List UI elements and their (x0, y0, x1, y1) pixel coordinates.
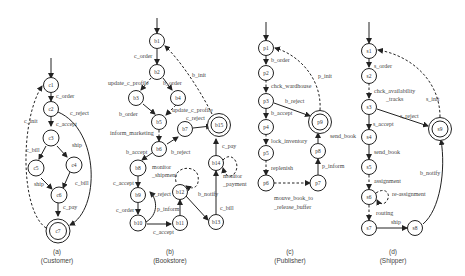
edge-label: chck_wardhouse (271, 83, 312, 89)
edge-label: ship (391, 219, 401, 225)
state-label: b10 (134, 220, 143, 226)
state-label: s1 (367, 48, 372, 54)
state-machine-diagram: c1 c2 c3 c4 c5 c6 c7 c_order c_accept c_… (0, 0, 465, 276)
state-label: s2 (367, 73, 372, 79)
edge-label: p_inform (322, 163, 345, 169)
edge-label: send_book (330, 133, 356, 139)
caption-name: (Customer) (41, 257, 74, 265)
caption-letter: (d) (389, 248, 397, 256)
edge-label: _shipment (151, 172, 177, 178)
state-label: b8 (135, 165, 141, 171)
edge-label: monitor (152, 164, 171, 170)
edge-s8-s9 (423, 140, 443, 224)
edge-label: s_reject (400, 113, 419, 119)
edge-b6-b7 (167, 137, 178, 144)
edge-label: re-assignment (392, 191, 426, 197)
state-label: c5 (33, 165, 38, 171)
edge-label: c_order (56, 93, 74, 99)
state-label: b2 (154, 69, 160, 75)
state-label: c6 (56, 192, 61, 198)
edge-label: c_init (24, 118, 38, 124)
edge-c7-c1 (26, 86, 46, 228)
edge-label: ship (72, 142, 82, 148)
state-label: s8 (413, 225, 418, 231)
edge-c4-c6 (63, 172, 70, 188)
state-label: p8 (315, 148, 321, 154)
edge-label: b_init (192, 72, 206, 78)
edge-label: c_accept (153, 229, 174, 235)
edge-b12-b13 (186, 196, 208, 220)
edge-label: b_order (119, 111, 138, 117)
edge-label: b_reject (171, 149, 191, 155)
caption-letter: (c) (286, 248, 294, 256)
state-label: p1 (263, 45, 269, 51)
caption-letter: (b) (166, 248, 174, 256)
edge-label: p_init (318, 73, 332, 79)
edge-label: b_order (163, 80, 182, 86)
edge-label: replenish (271, 165, 293, 171)
edge-label: p_inform (157, 206, 180, 212)
edge-label: b_reject (285, 98, 305, 104)
edge-label: c_order (134, 53, 152, 59)
state-label: b7 (182, 126, 188, 132)
edge-label: b_accept (126, 149, 148, 155)
panel-publisher: p1 p2 p3 p4 p5 p6 p7 p8 p9 b_order chck_… (258, 22, 356, 265)
edge-label: c_pay (222, 143, 236, 149)
state-label: p5 (263, 150, 269, 156)
edge-label: s_accept (373, 121, 394, 127)
state-label: b13 (212, 219, 221, 225)
state-label: p4 (263, 124, 269, 130)
edge-label: c_reject (70, 110, 89, 116)
state-label: s6 (367, 194, 372, 200)
edge-label: update_c_profile (172, 107, 213, 113)
edge-label: _release_buffer (273, 204, 311, 210)
caption-name: (Publisher) (274, 257, 305, 265)
state-label: p2 (263, 70, 269, 76)
edge-label: b_notify (198, 191, 218, 197)
caption-name: (Bookstore) (153, 257, 187, 265)
state-label: p6 (263, 180, 269, 186)
caption-letter: (a) (53, 248, 61, 256)
state-label: p9 (317, 119, 323, 125)
edge-s9-s1 (378, 50, 440, 117)
state-label: b12 (176, 189, 185, 195)
state-label: b14 (212, 160, 221, 166)
edge-s6-self (376, 190, 388, 203)
state-label: c7 (55, 228, 60, 234)
edge-label: c_bill (75, 180, 89, 186)
edge-b3-b5 (143, 104, 155, 114)
state-label: p3 (263, 98, 269, 104)
state-label: b6 (156, 146, 162, 152)
edge-label: c_pay (63, 204, 77, 210)
edge-label: _tracks (385, 96, 404, 102)
edge-label: ship (34, 181, 44, 187)
edge-label: b_notify (420, 170, 440, 176)
state-label: b15 (215, 122, 224, 128)
state-label: c4 (71, 162, 76, 168)
edge-label: c_order (116, 207, 134, 213)
state-label: p7 (315, 180, 321, 186)
state-label: b1 (154, 38, 160, 44)
edge-label: c_bill (26, 147, 40, 153)
state-label: s7 (367, 225, 372, 231)
state-label: c1 (48, 82, 53, 88)
edge-label: routing (376, 210, 393, 216)
edge-label: monitor (223, 173, 242, 179)
state-label: c3 (48, 135, 53, 141)
state-label: s5 (367, 164, 372, 170)
state-label: b11 (176, 220, 184, 226)
edge-label: inform_marketing (110, 130, 154, 136)
edge-label: s_order (374, 63, 392, 69)
edge-label: c_accept (56, 121, 77, 127)
edge-c3-c4 (57, 146, 67, 157)
edge-label: c_accept (113, 180, 134, 186)
edge-label: lock_inventory (271, 138, 307, 144)
panel-shipper: s1 s2 s3 s4 s5 s6 s7 s8 s9 s_order chck_… (362, 22, 452, 265)
panel-bookstore: b1 b2 b3 b4 b5 b6 b7 b8 b9 b10 b11 b12 b… (108, 18, 247, 265)
edge-label: assignment (374, 178, 401, 184)
state-label: c2 (48, 106, 53, 112)
edge-label: send_book (374, 149, 400, 155)
edge-label: b_accept (271, 110, 293, 116)
edge-label: chck_availability (374, 88, 415, 94)
state-label: s3 (367, 104, 372, 110)
